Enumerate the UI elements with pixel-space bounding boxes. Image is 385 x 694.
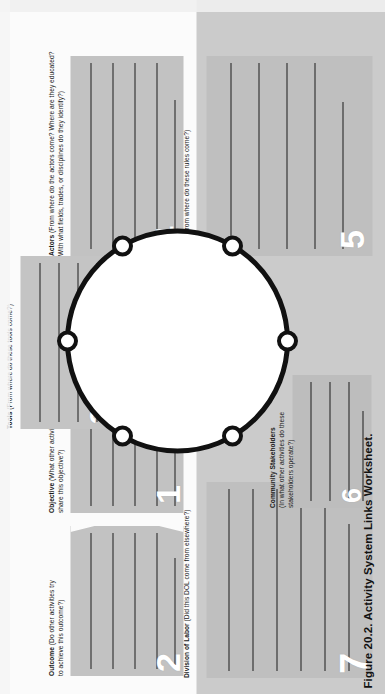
label-outcome-question-l2-wrap: to achieve this outcome?) — [56, 600, 65, 676]
section-number-1: 1 — [150, 485, 184, 504]
diagram-node — [59, 333, 76, 350]
label-outcome-question-l2: to achieve this outcome?) — [56, 600, 63, 676]
label-objective-title: Objective — [47, 483, 54, 513]
activity-system-circle-diagram — [52, 216, 302, 466]
panel-division-of-labor — [206, 482, 372, 678]
section-number-2: 2 — [150, 653, 184, 672]
diagram-node — [114, 238, 131, 255]
diagram-node — [114, 428, 131, 445]
figure-caption-text: Figure 20.2. Activity System Links Works… — [362, 433, 374, 688]
label-actors-question-l1: (From where do the actors come? Where ar… — [47, 52, 54, 233]
worksheet-sheet: 7 Division of Labor (Did this DOL come f… — [0, 0, 385, 694]
figure-caption-wrap: Figure 20.2. Activity System Links Works… — [357, 436, 379, 686]
label-outcome-question-l1: (Do other activities try — [47, 580, 54, 645]
writing-lines-division-of-labor — [206, 482, 372, 678]
section-number-5: 5 — [334, 230, 368, 249]
label-outcome: Outcome (Do other activities try — [47, 580, 56, 676]
worksheet-page: 7 Division of Labor (Did this DOL come f… — [0, 0, 385, 694]
diagram-node — [279, 333, 296, 350]
diagram-node — [224, 428, 241, 445]
scan-smudge — [0, 0, 385, 12]
label-outcome-title: Outcome — [47, 647, 54, 676]
diagram-node — [224, 238, 241, 255]
scan-smudge-edge — [0, 0, 10, 694]
